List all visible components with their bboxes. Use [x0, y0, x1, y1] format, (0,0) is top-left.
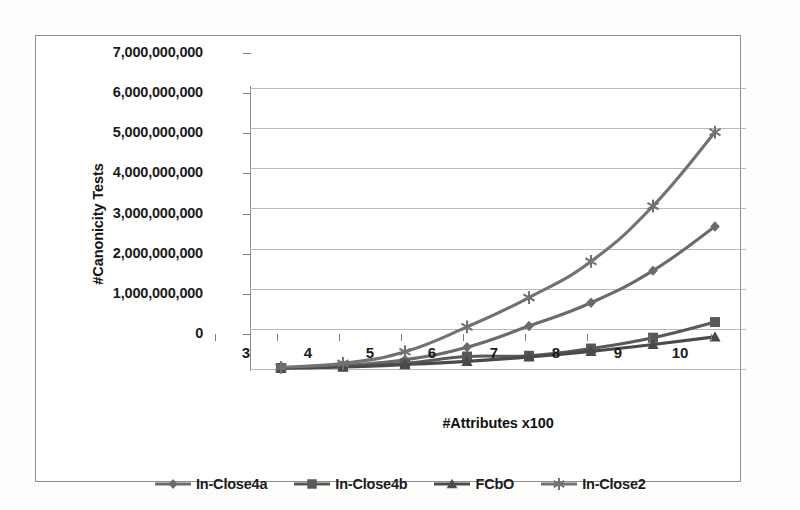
y-axis-tick [243, 93, 251, 94]
legend-item-in-close2[interactable]: In-Close2 [540, 476, 645, 492]
x-axis-tick [587, 334, 588, 341]
chart-legend: In-Close4aIn-Close4bFCbOIn-Close2 [154, 476, 646, 492]
y-axis-tick [243, 133, 251, 134]
x-axis-tick-label: 8 [536, 344, 576, 361]
series-layer [36, 36, 800, 510]
data-point-marker [524, 321, 534, 331]
legend-marker-triangle-icon [433, 476, 471, 492]
x-axis-tick [339, 334, 340, 341]
x-axis-tick [277, 334, 278, 341]
y-axis-tick [243, 294, 251, 295]
data-point-marker [462, 342, 472, 352]
y-axis-tick-label: 2,000,000,000 [41, 245, 203, 261]
y-axis-tick [243, 334, 251, 335]
x-axis-tick-label: 9 [598, 344, 638, 361]
legend-item-fcbo[interactable]: FCbO [433, 476, 514, 492]
legend-label: FCbO [475, 476, 514, 492]
legend-label: In-Close4b [335, 476, 407, 492]
y-axis-tick [243, 254, 251, 255]
x-axis-tick [711, 334, 712, 341]
data-point-marker [461, 320, 472, 333]
chart-frame: #Canonicity Tests #Attributes x100 In-Cl… [35, 35, 741, 482]
legend-marker-asterisk-icon [540, 476, 578, 492]
data-point-marker [586, 298, 596, 308]
x-axis-tick-label: 5 [350, 344, 390, 361]
legend-item-in-close4b[interactable]: In-Close4b [293, 476, 407, 492]
legend-marker-diamond-icon [154, 476, 192, 492]
x-axis-tick [649, 334, 650, 341]
y-axis-tick-label: 7,000,000,000 [41, 44, 203, 60]
x-axis-tick-label: 6 [412, 344, 452, 361]
x-axis-tick-label: 10 [660, 344, 700, 361]
y-axis-tick-label: 5,000,000,000 [41, 124, 203, 140]
legend-label: In-Close2 [582, 476, 645, 492]
y-axis-tick [243, 53, 251, 54]
x-axis-tick [215, 334, 216, 341]
data-point-marker [710, 317, 720, 327]
x-axis-tick [401, 334, 402, 341]
series-line [281, 132, 715, 367]
y-axis-tick [243, 173, 251, 174]
x-axis-tick-label: 3 [226, 344, 266, 361]
data-point-marker [523, 291, 534, 304]
scanned-figure-background: #Canonicity Tests #Attributes x100 In-Cl… [0, 0, 800, 510]
x-axis-tick [525, 334, 526, 341]
y-axis-tick [243, 214, 251, 215]
x-axis-tick [463, 334, 464, 341]
y-axis-tick-label: 6,000,000,000 [41, 84, 203, 100]
y-axis-tick-label: 1,000,000,000 [41, 285, 203, 301]
x-axis-tick-label: 7 [474, 344, 514, 361]
y-axis-tick-label: 3,000,000,000 [41, 205, 203, 221]
legend-label: In-Close4a [196, 476, 267, 492]
y-axis-tick-label: 4,000,000,000 [41, 164, 203, 180]
legend-item-in-close4a[interactable]: In-Close4a [154, 476, 267, 492]
y-axis-tick-label: 0 [41, 325, 203, 341]
legend-marker-square-icon [293, 476, 331, 492]
x-axis-tick-label: 4 [288, 344, 328, 361]
